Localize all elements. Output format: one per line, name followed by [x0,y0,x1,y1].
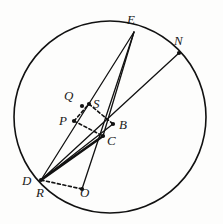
vertex-label-n: N [174,34,183,47]
vertex-dot-d [39,178,43,182]
vertex-dot-c [101,134,105,138]
vertex-label-b: B [119,118,127,131]
vertex-label-r: R [36,186,44,199]
geometry-figure: ENQSPBCDRO [0,0,223,224]
vertex-dot-s [87,102,91,106]
vertex-label-q: Q [64,89,73,102]
vertex-label-c: C [107,134,116,147]
segment-p-c [74,121,103,136]
vertex-label-e: E [127,13,135,26]
vertex-label-p: P [59,114,67,127]
figure-canvas [0,0,223,224]
segment-e-o [82,32,134,189]
vertex-label-o: O [80,186,89,199]
chord-lines-layer [41,32,179,189]
vertex-dot-n [177,51,181,55]
vertex-dot-p [72,119,76,123]
segment-d-c [41,136,103,180]
segment-d-o [41,180,82,189]
vertex-label-d: D [22,174,31,187]
vertex-label-s: S [93,97,100,110]
vertex-dot-q [80,104,84,108]
vertex-dot-b [111,122,115,126]
